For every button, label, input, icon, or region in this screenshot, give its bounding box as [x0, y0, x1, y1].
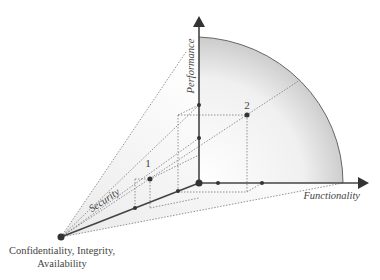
point-1-marker [148, 177, 153, 182]
performance-axis-label: Performance [185, 38, 196, 94]
functionality-arrow-icon [358, 177, 369, 189]
point-1-label: 1 [145, 157, 151, 169]
tradeoff-arc-region [199, 37, 343, 183]
point-2-marker [245, 113, 250, 118]
point-2-label: 2 [244, 99, 250, 111]
cia-label-line2: Availability [37, 258, 87, 269]
functionality-axis-label: Functionality [302, 190, 360, 201]
performance-arrow-icon [193, 16, 205, 27]
security-tradeoff-diagram: 1 2 Performance Functionality Security C… [0, 0, 380, 280]
cia-label-line1: Confidentiality, Integrity, [9, 245, 115, 256]
